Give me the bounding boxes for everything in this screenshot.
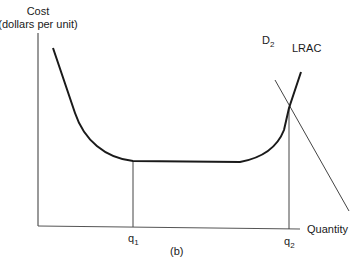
chart-canvas [0, 0, 357, 265]
x-axis [38, 226, 300, 229]
x-tick-q2: q2 [284, 236, 295, 250]
y-axis-label-line2: (dollars per unit) [0, 19, 78, 30]
x-axis-label: Quantity [307, 224, 348, 235]
demand-curve-d2 [275, 80, 349, 211]
lrac-curve [53, 48, 301, 162]
lrac-label: LRAC [292, 43, 321, 54]
y-axis-label-line1: Cost [0, 6, 78, 17]
x-tick-q1: q1 [128, 233, 139, 247]
y-axis-label: Cost (dollars per unit) [0, 6, 78, 30]
panel-label: (b) [170, 246, 183, 257]
d2-label: D2 [262, 35, 274, 49]
